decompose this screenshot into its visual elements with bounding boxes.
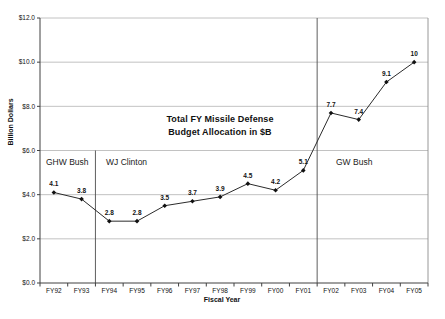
data-point-label: 10: [411, 50, 419, 57]
data-point-label: 3.9: [216, 185, 225, 192]
x-axis-title: Fiscal Year: [204, 296, 240, 303]
x-tick-label: FY94: [102, 287, 118, 294]
x-tick-label: FY96: [157, 287, 173, 294]
x-tick-label: FY95: [129, 287, 145, 294]
data-point-label: 9.1: [382, 70, 391, 77]
data-point-label: 3.8: [77, 187, 86, 194]
y-tick-label: $6.0: [22, 147, 35, 154]
y-tick-label: $0.0: [22, 279, 35, 286]
data-point-label: 2.8: [132, 209, 141, 216]
data-point-label: 7.4: [354, 108, 363, 115]
y-tick-label: $2.0: [22, 235, 35, 242]
data-point-label: 7.7: [326, 101, 335, 108]
era-label-wj-clinton: WJ Clinton: [106, 157, 147, 167]
y-tick-label: $10.0: [19, 58, 36, 65]
x-tick-label: FY05: [406, 287, 422, 294]
x-tick-label: FY00: [268, 287, 284, 294]
data-point-marker: [329, 111, 334, 116]
era-label-ghw-bush: GHW Bush: [46, 157, 89, 167]
data-point-label: 3.7: [188, 189, 197, 196]
chart-canvas: $0.0$2.0$4.0$6.0$8.0$10.0$12.0FY92FY93FY…: [0, 0, 445, 319]
x-tick-label: FY93: [74, 287, 90, 294]
y-tick-label: $4.0: [22, 191, 35, 198]
x-tick-label: FY99: [240, 287, 256, 294]
data-point-marker: [135, 219, 140, 224]
data-point-marker: [218, 195, 223, 200]
series-line: [54, 62, 414, 221]
y-axis-title: Billion Dollars: [7, 98, 14, 145]
x-tick-label: FY98: [212, 287, 228, 294]
x-tick-label: FY02: [323, 287, 339, 294]
data-point-marker: [162, 203, 167, 208]
x-tick-label: FY92: [46, 287, 62, 294]
chart-title-line2: Budget Allocation in $B: [166, 126, 273, 139]
x-tick-label: FY97: [185, 287, 201, 294]
y-tick-label: $12.0: [19, 14, 36, 21]
data-point-label: 4.1: [49, 180, 58, 187]
data-point-label: 3.5: [160, 194, 169, 201]
data-point-label: 2.8: [105, 209, 114, 216]
x-tick-label: FY01: [296, 287, 312, 294]
chart-title: Total FY Missile Defense Budget Allocati…: [166, 113, 273, 138]
y-tick-label: $8.0: [22, 103, 35, 110]
x-tick-label: FY03: [351, 287, 367, 294]
era-label-gw-bush: GW Bush: [336, 157, 372, 167]
data-point-marker: [190, 199, 195, 204]
data-point-label: 4.5: [243, 172, 252, 179]
x-tick-label: FY04: [379, 287, 395, 294]
data-point-marker: [246, 181, 251, 186]
data-point-label: 4.2: [271, 178, 280, 185]
data-point-label: 5.1: [299, 158, 308, 165]
data-point-marker: [52, 190, 57, 195]
chart-title-line1: Total FY Missile Defense: [166, 113, 273, 126]
